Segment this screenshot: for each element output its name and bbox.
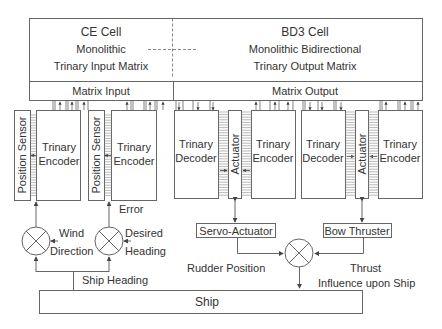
decoder-2-line2: Decoder (302, 152, 344, 164)
wind-label-1: Wind (59, 227, 84, 239)
bd3-cell-title: BD3 Cell (281, 25, 328, 39)
encoder-4-line2: Encoder (380, 152, 421, 164)
summing-junction-3 (285, 239, 313, 267)
sensor-module-2: Position Sensor Trinary Encoder (89, 111, 157, 201)
rudder-to-junction (238, 238, 284, 254)
ship-label: Ship (195, 295, 219, 309)
bd3-cell-line3: Trinary Output Matrix (254, 60, 357, 72)
thrust-label: Thrust (350, 262, 381, 274)
decoder-1-line1: Trinary (179, 138, 213, 150)
summing-junction-2 (95, 227, 123, 255)
matrix-output-label: Matrix Output (272, 85, 338, 97)
ce-cell-line3: Trinary Input Matrix (54, 60, 149, 72)
ship-control-diagram: CE Cell Monolithic Trinary Input Matrix … (0, 0, 442, 329)
rudder-position-label: Rudder Position (187, 262, 265, 274)
matrix-panel: CE Cell Monolithic Trinary Input Matrix … (30, 19, 423, 101)
ship-heading-label: Ship Heading (82, 274, 148, 286)
encoder-1-line1: Trinary (42, 141, 76, 153)
decoder-2-line1: Trinary (306, 138, 340, 150)
bus-ladder-4a (346, 112, 356, 196)
matrix-input-label: Matrix Input (72, 85, 129, 97)
ce-cell-line2: Monolithic (76, 43, 126, 55)
encoder-2-line2: Encoder (114, 155, 155, 167)
bus-ladder-3a (219, 112, 229, 196)
actuator-module-2: Trinary Decoder Actuator Trinary Encoder (302, 111, 423, 199)
encoder-3-line2: Encoder (253, 152, 294, 164)
error-label: Error (119, 203, 144, 215)
desired-label-1: Desired (125, 227, 163, 239)
encoder-4-line1: Trinary (383, 138, 417, 150)
encoder-1-line2: Encoder (39, 155, 80, 167)
position-sensor-1-label: Position Sensor (16, 116, 28, 193)
position-sensor-2-label: Position Sensor (90, 116, 102, 193)
influence-label: Influence upon Ship (318, 277, 415, 289)
desired-label-2: Heading (125, 245, 166, 257)
encoder-3-line1: Trinary (256, 138, 290, 150)
actuator-1-label: Actuator (229, 133, 241, 174)
bus-ladder-3b (242, 112, 252, 196)
bow-thruster-label: Bow Thruster (324, 225, 390, 237)
actuator-2-label: Actuator (356, 133, 368, 174)
sensor-module-1: Position Sensor Trinary Encoder (15, 111, 81, 201)
ce-cell-title: CE Cell (81, 25, 122, 39)
bus-ladder-4b (369, 112, 379, 196)
decoder-1-line2: Decoder (175, 152, 217, 164)
wind-label-2: Direction (50, 245, 93, 257)
actuator-module-1: Trinary Decoder Actuator Trinary Encoder (175, 111, 296, 199)
bus-connectors (53, 101, 418, 110)
thrust-to-junction (315, 238, 364, 254)
summing-junction-1 (22, 227, 50, 255)
encoder-2-line1: Trinary (117, 141, 151, 153)
bd3-cell-line2: Monolithic Bidirectional (249, 43, 362, 55)
servo-actuator-label: Servo-Actuator (199, 225, 273, 237)
